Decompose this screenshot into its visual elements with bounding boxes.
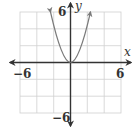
y-axis-label: y (74, 0, 82, 13)
y-max-label: 6 (58, 5, 66, 19)
y-min-label: −6 (52, 111, 70, 125)
x-axis-label: x (124, 45, 131, 59)
x-max-label: 6 (116, 67, 124, 81)
x-min-label: −6 (13, 67, 31, 81)
coordinate-plane: y x 6 −6 −6 6 (0, 0, 136, 130)
